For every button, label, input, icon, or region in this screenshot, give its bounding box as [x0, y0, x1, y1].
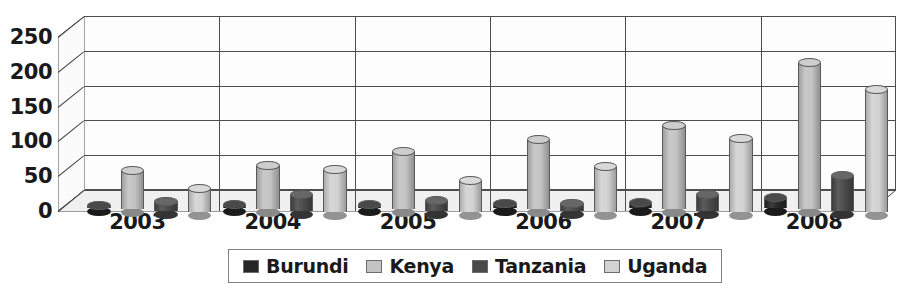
bar-top-ellipse [493, 199, 516, 208]
bar-base-ellipse [459, 211, 482, 220]
bar [425, 196, 448, 215]
bar-base-ellipse [493, 207, 516, 216]
y-tick-label: 150 [0, 96, 52, 117]
bar [865, 85, 888, 216]
bar-top-ellipse [358, 200, 381, 209]
bar-top-ellipse [527, 135, 550, 144]
bar-top-ellipse [459, 176, 482, 185]
bar-base-ellipse [865, 211, 888, 220]
bar-body [831, 176, 854, 211]
bar-body [865, 90, 888, 212]
bar [87, 201, 110, 212]
bar [493, 199, 516, 212]
bar-base-ellipse [831, 210, 854, 219]
bar [154, 197, 177, 215]
bar-body [798, 63, 821, 209]
bar-base-ellipse [696, 210, 719, 219]
y-tick-label: 0 [0, 201, 52, 222]
bar-body [459, 181, 482, 212]
bar-body [729, 139, 752, 212]
bar [121, 166, 144, 213]
bar-body [121, 171, 144, 209]
legend-item-kenya[interactable]: Kenya [366, 257, 454, 276]
bar-chart: 250200150100500 200320042005200620072008… [0, 0, 902, 303]
bar-body [662, 126, 685, 210]
bar-top-ellipse [662, 121, 685, 130]
legend-label: Uganda [627, 257, 707, 276]
bar [696, 190, 719, 214]
bar [188, 184, 211, 216]
bar-top-ellipse [87, 201, 110, 210]
bar-body [527, 140, 550, 210]
bar-top-ellipse [594, 162, 617, 171]
bar-top-ellipse [560, 199, 583, 208]
legend-label: Kenya [389, 257, 454, 276]
bar-body [392, 152, 415, 209]
bar [527, 135, 550, 214]
bars-layer [58, 16, 896, 211]
bar [256, 161, 279, 213]
legend-item-tanzania[interactable]: Tanzania [472, 257, 586, 276]
y-tick-label: 50 [0, 166, 52, 187]
legend-swatch-icon [243, 260, 259, 273]
bar [629, 198, 652, 213]
y-axis: 250200150100500 [0, 0, 52, 210]
y-tick-label: 250 [0, 27, 52, 48]
bar-base-ellipse [154, 210, 177, 219]
bar [223, 200, 246, 212]
bar-top-ellipse [764, 193, 787, 202]
bar-top-ellipse [729, 134, 752, 143]
bar-body [323, 170, 346, 212]
bar-base-ellipse [323, 211, 346, 220]
y-tick-label: 200 [0, 61, 52, 82]
legend-swatch-icon [366, 260, 382, 273]
legend-label: Tanzania [495, 257, 586, 276]
bar [662, 121, 685, 214]
bar [764, 193, 787, 212]
bar [594, 162, 617, 216]
bar [729, 134, 752, 216]
bar [831, 171, 854, 215]
bar-body [256, 166, 279, 209]
bar [798, 58, 821, 213]
bar [392, 147, 415, 213]
bar [323, 165, 346, 216]
legend-item-uganda[interactable]: Uganda [604, 257, 707, 276]
bar-base-ellipse [425, 210, 448, 219]
bar [358, 200, 381, 212]
bar-base-ellipse [290, 210, 313, 219]
legend-item-burundi[interactable]: Burundi [243, 257, 348, 276]
chart-legend: BurundiKenyaTanzaniaUganda [228, 249, 722, 283]
legend-label: Burundi [266, 257, 348, 276]
bar [459, 176, 482, 216]
bar [560, 199, 583, 215]
legend-swatch-icon [472, 260, 488, 273]
bar-top-ellipse [831, 171, 854, 180]
bar-top-ellipse [223, 200, 246, 209]
bar-base-ellipse [560, 210, 583, 219]
legend-swatch-icon [604, 260, 620, 273]
bar-top-ellipse [629, 198, 652, 207]
plot-area [58, 16, 896, 211]
bar [290, 190, 313, 214]
bar-base-ellipse [729, 211, 752, 220]
bar-top-ellipse [154, 197, 177, 206]
y-tick-label: 100 [0, 131, 52, 152]
bar-body [594, 167, 617, 212]
